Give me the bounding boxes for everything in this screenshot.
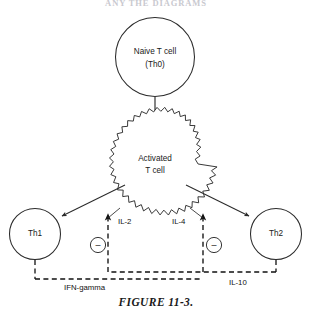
left-inhibition-sign: – [90,237,105,252]
naive-t-cell-label-line2: (Th0) [145,60,165,69]
activated-t-cell-label-line1: Activated [138,154,172,163]
th1-node: Th1 [10,209,61,260]
activated-t-cell-label-line2: T cell [145,166,165,175]
activated-t-cell-node: Activated T cell [109,107,217,215]
figure-caption: FIGURE 11-3. [0,296,312,308]
ifn-gamma-label: IFN-gamma [64,283,106,292]
naive-t-cell-circle [116,18,195,97]
naive-t-cell-node: Naive T cell (Th0) [116,18,195,97]
naive-t-cell-label-line1: Naive T cell [134,47,177,56]
left-inhibition-minus-icon: – [95,240,100,250]
right-inhibition-sign: – [206,237,221,252]
il4-label: IL-4 [172,217,186,226]
il4-label-leader-line [190,208,203,218]
th2-node: Th2 [251,209,302,260]
th1-th2-differentiation-diagram: Naive T cell (Th0) Activated T cell Th1 … [0,0,312,317]
il2-label: IL-2 [118,217,131,226]
th2-label: Th2 [269,229,284,238]
il10-label: IL-10 [229,278,247,287]
figure-container: ANY THE DIAGRAMS Naive T cell (Th0) Acti… [0,0,312,317]
th1-label: Th1 [28,229,43,238]
right-inhibition-minus-icon: – [211,240,216,250]
